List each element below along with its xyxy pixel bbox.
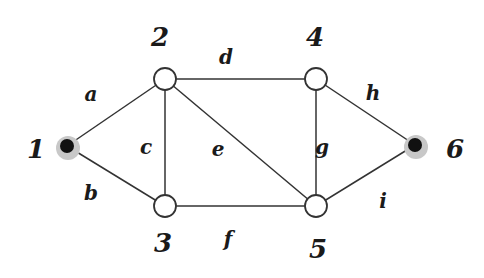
edge-label-d: d xyxy=(219,45,233,69)
edge-label-f: f xyxy=(222,227,236,251)
node-2 xyxy=(154,68,176,90)
node-label-6: 6 xyxy=(446,134,464,164)
edge-label-i: i xyxy=(379,189,387,213)
edge-e xyxy=(165,79,316,206)
node-label-2: 2 xyxy=(150,22,169,52)
edge-label-g: g xyxy=(315,135,329,159)
node-6 xyxy=(404,135,428,159)
node-circle xyxy=(154,68,176,90)
node-label-5: 5 xyxy=(309,234,327,264)
node-4 xyxy=(305,68,327,90)
node-3 xyxy=(154,195,176,217)
node-label-3: 3 xyxy=(154,228,172,258)
node-5 xyxy=(305,195,327,217)
node-circle xyxy=(305,195,327,217)
node-label-4: 4 xyxy=(306,22,324,52)
node-1 xyxy=(56,136,80,160)
edge-label-b: b xyxy=(84,181,98,205)
node-circle xyxy=(154,195,176,217)
edge-label-e: e xyxy=(212,137,225,161)
node-dot xyxy=(60,139,74,153)
edge-label-a: a xyxy=(85,82,98,106)
graph-diagram: 123456abcdefghi xyxy=(0,0,484,278)
edge-label-h: h xyxy=(366,81,381,105)
graph-svg: 123456abcdefghi xyxy=(0,0,484,278)
node-dot xyxy=(408,138,422,152)
node-label-1: 1 xyxy=(27,134,45,164)
node-circle xyxy=(305,68,327,90)
edge-label-c: c xyxy=(140,135,152,159)
edge-i xyxy=(316,145,415,206)
